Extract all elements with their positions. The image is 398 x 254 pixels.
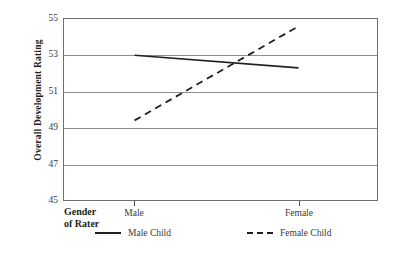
line-male-child bbox=[135, 55, 299, 68]
y-tick-label-51: 51 bbox=[32, 86, 58, 96]
legend-swatch-dashed-line-icon bbox=[247, 228, 273, 238]
x-tickmark-male bbox=[134, 201, 135, 206]
x-tick-label-female: Female bbox=[244, 208, 354, 218]
y-tick-label-45: 45 bbox=[32, 195, 58, 205]
chart-figure: Overall Development Rating 55 53 51 49 4… bbox=[0, 0, 398, 254]
y-tick-label-47: 47 bbox=[32, 159, 58, 169]
y-tick-label-53: 53 bbox=[32, 49, 58, 59]
line-female-child bbox=[135, 26, 299, 120]
legend-item-female-child: Female Child bbox=[247, 228, 331, 238]
x-axis-title-line1: Gender bbox=[64, 206, 130, 218]
y-tick-label-55: 55 bbox=[32, 13, 58, 23]
plot-area bbox=[63, 18, 378, 201]
legend-label-male-child: Male Child bbox=[128, 228, 171, 238]
y-tick-label-49: 49 bbox=[32, 122, 58, 132]
legend-swatch-solid-line-icon bbox=[95, 228, 121, 238]
x-tickmark-female bbox=[299, 201, 300, 206]
x-axis-title: Gender of Rater bbox=[64, 206, 130, 229]
chart-legend: Male Child Female Child bbox=[95, 228, 395, 246]
legend-label-female-child: Female Child bbox=[280, 228, 331, 238]
series-lines bbox=[64, 19, 377, 200]
legend-item-male-child: Male Child bbox=[95, 228, 171, 238]
y-axis-tick-labels: 55 53 51 49 47 45 bbox=[30, 0, 58, 254]
